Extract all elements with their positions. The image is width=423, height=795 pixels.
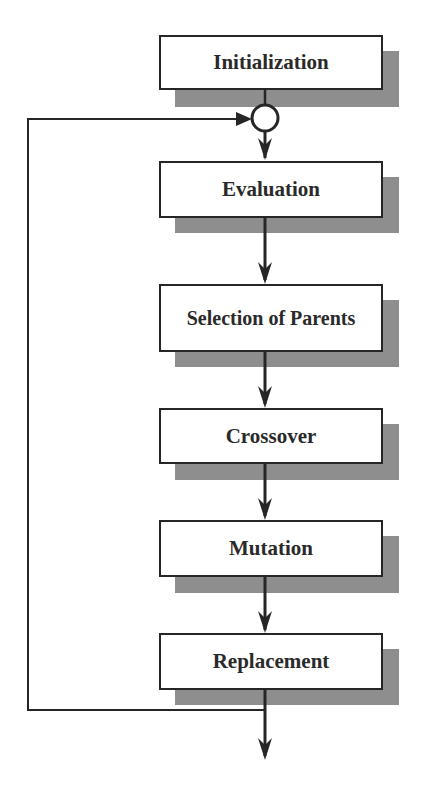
step-crossover: Crossover [159,408,383,464]
step-selection-of-parents: Selection of Parents [159,284,383,352]
step-evaluation: Evaluation [159,161,383,218]
step-label: Evaluation [222,177,320,202]
step-mutation: Mutation [159,520,383,577]
step-label: Selection of Parents [187,307,356,330]
junction-circle [252,105,278,131]
step-label: Initialization [213,50,329,75]
feedback-arrow-icon [236,112,252,126]
step-replacement: Replacement [159,633,383,690]
flowchart: Initialization Evaluation Selection of P… [0,0,423,795]
step-label: Crossover [226,424,317,449]
step-label: Replacement [213,649,330,674]
step-label: Mutation [229,536,313,561]
step-initialization: Initialization [159,35,383,90]
